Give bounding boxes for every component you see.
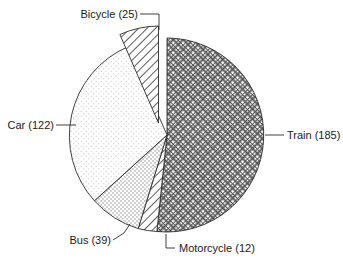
pie-label-bicycle: Bicycle (25)	[81, 8, 138, 20]
pie-chart: Bicycle (25) Car (122) Train (185) Bus (…	[0, 0, 343, 260]
pie-chart-svg: Bicycle (25) Car (122) Train (185) Bus (…	[0, 0, 343, 260]
pie-label-bus: Bus (39)	[69, 234, 111, 246]
pie-label-motorcycle: Motorcycle (12)	[179, 242, 255, 254]
pie-label-car: Car (122)	[8, 119, 54, 131]
pie-label-train: Train (185)	[287, 129, 340, 141]
